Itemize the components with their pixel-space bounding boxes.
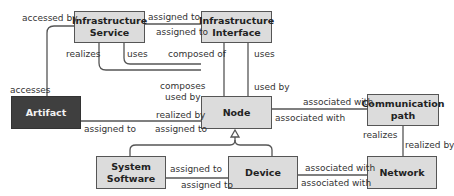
network-element[interactable]: Network <box>367 156 437 189</box>
relation-label: realized by <box>156 110 205 121</box>
relation-label: uses <box>254 49 275 60</box>
network-label: Network <box>379 167 424 179</box>
communication-path-element[interactable]: Communication path <box>367 94 439 126</box>
infrastructure-interface-element[interactable]: Infrastructure Interface <box>201 11 272 43</box>
infrastructure-service-element[interactable]: Infrastructure Service <box>74 11 145 43</box>
relation-label: assigned to <box>181 180 233 191</box>
relation-label: assigned to <box>170 164 222 175</box>
relation-label: assigned to <box>84 124 136 135</box>
node-element[interactable]: Node <box>201 96 272 129</box>
relation-label: associated with <box>275 113 345 124</box>
relation-label: used by <box>254 82 290 93</box>
device-element[interactable]: Device <box>228 156 298 189</box>
relation-label: realized by <box>405 140 454 151</box>
infrastructure-service-label: Infrastructure Service <box>72 15 147 39</box>
system-software-label: System Software <box>107 161 155 185</box>
infrastructure-interface-label: Infrastructure Interface <box>199 15 274 39</box>
device-label: Device <box>245 167 281 179</box>
relation-label: associated with <box>305 163 375 174</box>
relation-label: accessed by <box>22 13 77 24</box>
relation-label: realizes <box>363 130 398 141</box>
artifact-element[interactable]: Artifact <box>11 96 81 129</box>
relation-label: composed of <box>168 49 226 60</box>
system-software-element[interactable]: System Software <box>96 156 166 189</box>
relation-label: composes <box>160 81 205 92</box>
relation-label: uses <box>127 49 148 60</box>
artifact-label: Artifact <box>26 107 67 119</box>
relation-label: assigned to <box>155 124 207 135</box>
relation-label: associated with <box>301 178 371 189</box>
relation-label: assigned to <box>156 27 208 38</box>
relation-label: realizes <box>66 49 101 60</box>
relation-label: assigned to <box>148 12 200 23</box>
communication-path-label: Communication path <box>361 98 444 122</box>
relation-label: associated with <box>303 97 373 108</box>
relation-label: used by <box>165 92 201 103</box>
node-label: Node <box>223 107 251 119</box>
relation-label: accesses <box>10 85 51 96</box>
